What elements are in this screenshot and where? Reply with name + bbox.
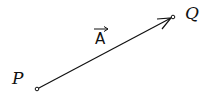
vector-diagram xyxy=(0,0,204,97)
arrowhead-icon xyxy=(157,18,171,29)
vector-a-label: A xyxy=(95,32,105,47)
point-q-marker xyxy=(171,15,175,19)
point-p-label: P xyxy=(12,70,23,87)
point-q-label: Q xyxy=(185,5,199,22)
point-p-marker xyxy=(35,87,39,91)
